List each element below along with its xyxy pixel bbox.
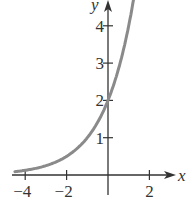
data-curve <box>15 0 135 172</box>
y-tick-label: 2 <box>96 91 105 110</box>
y-axis-label: y <box>89 0 99 14</box>
x-axis-label: x <box>177 166 186 185</box>
y-tick-label: 1 <box>96 129 105 148</box>
x-tick-label: 2 <box>145 182 154 201</box>
x-tick-label: −4 <box>13 182 32 201</box>
chart: −4−221234 x y <box>0 0 194 216</box>
y-tick-label: 3 <box>96 54 105 73</box>
x-tick-label: −2 <box>55 182 73 201</box>
y-tick-label: 4 <box>96 17 105 36</box>
